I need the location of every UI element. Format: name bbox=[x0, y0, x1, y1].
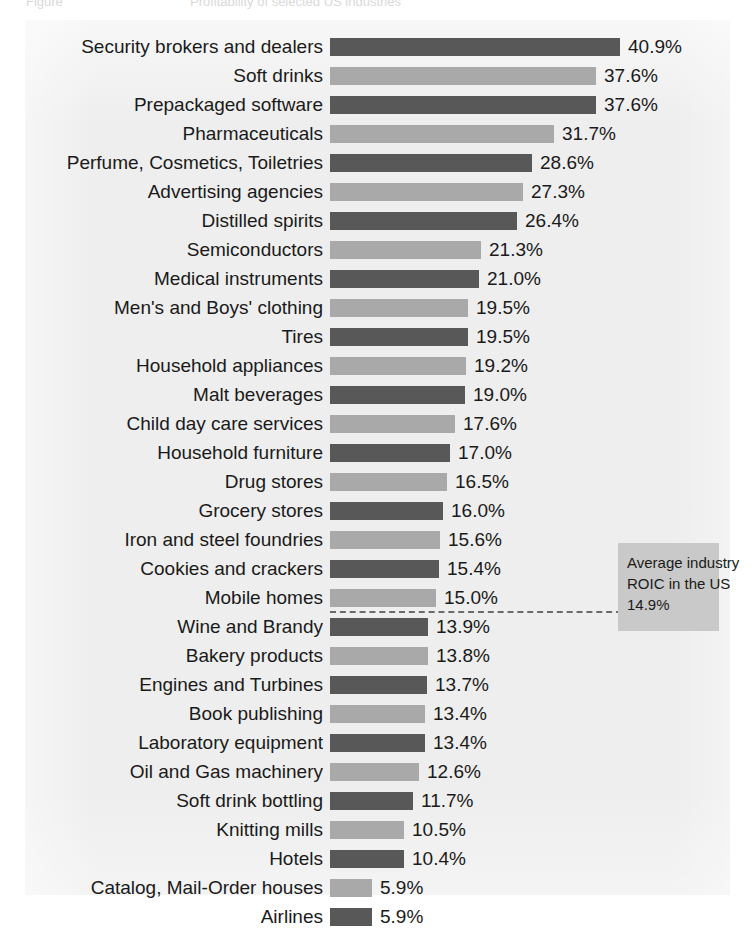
bar bbox=[330, 96, 596, 114]
bar-row: Drug stores16.5% bbox=[25, 469, 730, 498]
bar-row: Household appliances19.2% bbox=[25, 353, 730, 382]
bar-category-label: Book publishing bbox=[25, 701, 323, 730]
bar-category-label: Medical instruments bbox=[25, 266, 323, 295]
bar bbox=[330, 821, 404, 839]
bar-value-label: 21.3% bbox=[489, 237, 543, 266]
bar bbox=[330, 908, 372, 926]
bar-row: Engines and Turbines13.7% bbox=[25, 672, 730, 701]
bar bbox=[330, 299, 468, 317]
bar-value-label: 13.8% bbox=[436, 643, 490, 672]
bar bbox=[330, 125, 554, 143]
bar-row: Distilled spirits26.4% bbox=[25, 208, 730, 237]
bar-value-label: 15.4% bbox=[447, 556, 501, 585]
average-roic-annotation: Average industry ROIC in the US 14.9% bbox=[618, 543, 719, 631]
bar-row: Airlines5.9% bbox=[25, 904, 730, 930]
bar-row: Grocery stores16.0% bbox=[25, 498, 730, 527]
bar-category-label: Drug stores bbox=[25, 469, 323, 498]
bar bbox=[330, 705, 425, 723]
bar-row: Oil and Gas machinery12.6% bbox=[25, 759, 730, 788]
bar-value-label: 15.6% bbox=[448, 527, 502, 556]
bar-value-label: 13.4% bbox=[433, 730, 487, 759]
bar-value-label: 17.0% bbox=[458, 440, 512, 469]
bar-row: Laboratory equipment13.4% bbox=[25, 730, 730, 759]
bar-category-label: Semiconductors bbox=[25, 237, 323, 266]
bar-value-label: 26.4% bbox=[525, 208, 579, 237]
bar-value-label: 10.4% bbox=[412, 846, 466, 875]
bar bbox=[330, 241, 481, 259]
bar bbox=[330, 270, 479, 288]
bar-category-label: Engines and Turbines bbox=[25, 672, 323, 701]
bar-value-label: 16.5% bbox=[455, 469, 509, 498]
annotation-line-2: ROIC in the US bbox=[627, 573, 711, 594]
bar bbox=[330, 67, 596, 85]
bar-row: Catalog, Mail-Order houses5.9% bbox=[25, 875, 730, 904]
bar-value-label: 11.7% bbox=[421, 788, 473, 817]
bar-value-label: 15.0% bbox=[444, 585, 498, 614]
bar-category-label: Soft drink bottling bbox=[25, 788, 323, 817]
bar-row: Book publishing13.4% bbox=[25, 701, 730, 730]
bar bbox=[330, 386, 465, 404]
bar-category-label: Distilled spirits bbox=[25, 208, 323, 237]
bar bbox=[330, 415, 455, 433]
bar-row: Soft drink bottling11.7% bbox=[25, 788, 730, 817]
bar bbox=[330, 473, 447, 491]
bar bbox=[330, 357, 466, 375]
bar-value-label: 16.0% bbox=[451, 498, 505, 527]
bar-category-label: Malt beverages bbox=[25, 382, 323, 411]
chart-panel: Security brokers and dealers40.9%Soft dr… bbox=[25, 20, 730, 895]
bar-row: Malt beverages19.0% bbox=[25, 382, 730, 411]
bar-category-label: Bakery products bbox=[25, 643, 323, 672]
bar bbox=[330, 879, 372, 897]
bar-category-label: Soft drinks bbox=[25, 63, 323, 92]
bar-category-label: Child day care services bbox=[25, 411, 323, 440]
bar-row: Advertising agencies27.3% bbox=[25, 179, 730, 208]
bar-category-label: Men's and Boys' clothing bbox=[25, 295, 323, 324]
figure-header: Figure Profitability of selected US indu… bbox=[0, 0, 754, 12]
bar-row: Hotels10.4% bbox=[25, 846, 730, 875]
bar-row: Semiconductors21.3% bbox=[25, 237, 730, 266]
bar-row: Medical instruments21.0% bbox=[25, 266, 730, 295]
bar bbox=[330, 183, 523, 201]
bar-value-label: 13.9% bbox=[436, 614, 490, 643]
bar-category-label: Perfume, Cosmetics, Toiletries bbox=[25, 150, 323, 179]
bar-category-label: Prepackaged software bbox=[25, 92, 323, 121]
figure-label: Figure bbox=[26, 0, 63, 9]
bar bbox=[330, 763, 419, 781]
bar-rows-container: Security brokers and dealers40.9%Soft dr… bbox=[25, 20, 730, 895]
bar-value-label: 27.3% bbox=[531, 179, 585, 208]
bar-row: Security brokers and dealers40.9% bbox=[25, 34, 730, 63]
annotation-line-1: Average industry bbox=[627, 552, 711, 573]
bar-category-label: Mobile homes bbox=[25, 585, 323, 614]
bar-value-label: 5.9% bbox=[380, 875, 423, 904]
bar bbox=[330, 676, 427, 694]
bar-row: Soft drinks37.6% bbox=[25, 63, 730, 92]
bar-category-label: Airlines bbox=[25, 904, 323, 930]
bar-category-label: Tires bbox=[25, 324, 323, 353]
bar-row: Perfume, Cosmetics, Toiletries28.6% bbox=[25, 150, 730, 179]
bar bbox=[330, 589, 436, 607]
bar-value-label: 28.6% bbox=[540, 150, 594, 179]
bar-value-label: 5.9% bbox=[380, 904, 423, 930]
bar bbox=[330, 850, 404, 868]
bar-value-label: 13.7% bbox=[435, 672, 489, 701]
average-roic-dashed-line bbox=[330, 611, 622, 613]
bar-row: Bakery products13.8% bbox=[25, 643, 730, 672]
annotation-line-3: 14.9% bbox=[627, 594, 711, 615]
bar-category-label: Wine and Brandy bbox=[25, 614, 323, 643]
bar-row: Prepackaged software37.6% bbox=[25, 92, 730, 121]
bar-category-label: Security brokers and dealers bbox=[25, 34, 323, 63]
bar-category-label: Laboratory equipment bbox=[25, 730, 323, 759]
bar-value-label: 10.5% bbox=[412, 817, 466, 846]
bar bbox=[330, 502, 443, 520]
bar bbox=[330, 618, 428, 636]
bar-category-label: Grocery stores bbox=[25, 498, 323, 527]
bar-category-label: Oil and Gas machinery bbox=[25, 759, 323, 788]
bar-value-label: 19.0% bbox=[473, 382, 527, 411]
bar bbox=[330, 212, 517, 230]
bar-value-label: 40.9% bbox=[628, 34, 682, 63]
bar-row: Pharmaceuticals31.7% bbox=[25, 121, 730, 150]
bar-value-label: 17.6% bbox=[463, 411, 517, 440]
bar-category-label: Pharmaceuticals bbox=[25, 121, 323, 150]
bar bbox=[330, 734, 425, 752]
bar bbox=[330, 647, 428, 665]
